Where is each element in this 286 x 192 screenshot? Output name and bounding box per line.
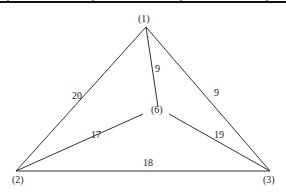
node-2-label: (2) xyxy=(12,174,24,186)
node-6-label: (6) xyxy=(151,104,163,116)
node-3-label: (3) xyxy=(263,174,275,186)
edge-2-3-weight: 18 xyxy=(143,157,153,168)
graph-diagram: (1) (2) (3) (6) 20 9 9 17 19 18 xyxy=(0,0,286,192)
edge-1-6-weight: 9 xyxy=(155,63,160,74)
edge-6-3 xyxy=(169,114,270,171)
edge-2-6 xyxy=(16,114,143,171)
edge-1-3 xyxy=(146,27,270,171)
edge-1-2-weight: 20 xyxy=(72,90,82,101)
edge-1-3-weight: 9 xyxy=(214,87,219,98)
edge-2-6-weight: 17 xyxy=(91,129,101,140)
node-1-label: (1) xyxy=(138,13,150,25)
edge-6-3-weight: 19 xyxy=(214,129,224,140)
graph-canvas: (1) (2) (3) (6) 20 9 9 17 19 18 xyxy=(0,0,286,192)
